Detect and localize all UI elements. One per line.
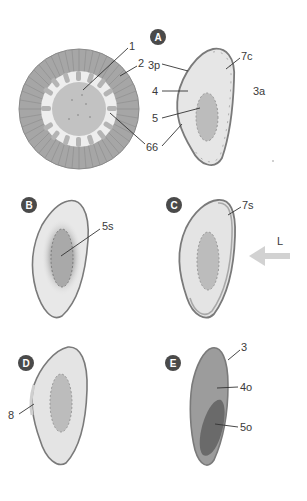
badge-a-label: A	[154, 32, 161, 43]
badge-d-label: D	[22, 358, 29, 369]
label-3p: 3p	[148, 59, 160, 71]
light-arrow-icon	[249, 246, 290, 266]
label-7s: 7s	[242, 199, 254, 211]
diagram-canvas: 1 2 6 A 3p 4 5 6 7c 3a B 5s C	[0, 0, 307, 501]
badge-e-label: E	[170, 358, 177, 369]
cell-a-core	[196, 93, 218, 141]
panel-b: B 5s	[21, 197, 114, 318]
label-6-a: 6	[152, 141, 158, 153]
leader-3p	[162, 64, 188, 71]
leader-3	[228, 350, 240, 360]
label-3a: 3a	[253, 85, 266, 97]
cell-b-core	[51, 229, 73, 287]
overview-cross-section: 1 2 6	[19, 40, 152, 169]
label-5: 5	[152, 112, 158, 124]
panel-d: D 8	[8, 347, 87, 464]
badge-b-label: B	[25, 200, 32, 211]
panel-e: E 3 4o 5o	[165, 341, 252, 465]
cell-c-core	[197, 232, 219, 290]
label-8: 8	[8, 409, 14, 421]
panel-c: C 7s L	[166, 197, 290, 317]
label-1: 1	[129, 40, 135, 52]
label-5s: 5s	[102, 220, 114, 232]
label-7c: 7c	[241, 50, 253, 62]
label-l: L	[277, 235, 283, 247]
badge-c-label: C	[170, 200, 177, 211]
label-4: 4	[152, 85, 158, 97]
label-2: 2	[138, 57, 144, 69]
panel-a: A 3p 4 5 6 7c 3a	[148, 29, 274, 165]
leader-6-a	[162, 124, 182, 146]
speck	[272, 160, 274, 162]
label-4o: 4o	[240, 381, 252, 393]
cell-d-core	[50, 374, 72, 432]
label-5o: 5o	[240, 421, 252, 433]
label-3: 3	[241, 341, 247, 353]
core	[52, 82, 106, 136]
